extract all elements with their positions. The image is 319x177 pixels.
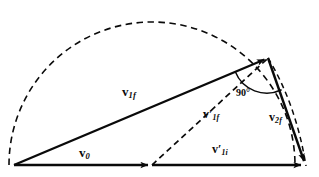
label-right-angle: 90° bbox=[236, 88, 250, 98]
label-v1f-prime: v′1f bbox=[203, 108, 219, 122]
label-v0: v0 bbox=[79, 146, 90, 160]
label-v1i-prime: v′1i bbox=[212, 143, 228, 157]
label-v1f-prime-subscript: 1f bbox=[212, 113, 219, 122]
semicircle-dashed-arc bbox=[9, 22, 295, 165]
label-v0-subscript: 0 bbox=[86, 151, 91, 161]
label-v1f-subscript: 1f bbox=[129, 90, 137, 100]
label-v2f: v2f bbox=[269, 111, 282, 125]
label-v1f: v1f bbox=[122, 85, 136, 99]
vector-diagram-svg bbox=[0, 0, 319, 177]
label-v2f-subscript: 2f bbox=[275, 116, 282, 125]
label-v1i-prime-subscript: 1i bbox=[221, 148, 228, 157]
figure-canvas: v1f v0 v′1f v′1i v2f 90° bbox=[0, 0, 319, 177]
